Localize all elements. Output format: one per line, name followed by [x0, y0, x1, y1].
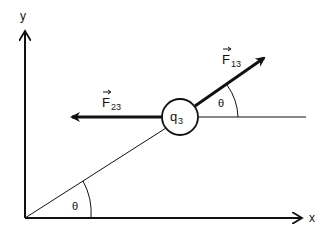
x-axis-label: x — [309, 211, 315, 225]
svg-text:3: 3 — [178, 116, 183, 126]
svg-text:F: F — [222, 52, 230, 67]
y-axis-label: y — [20, 9, 26, 23]
svg-text:q: q — [170, 109, 177, 124]
angle-arc-origin — [83, 181, 91, 218]
angle-arc-charge — [227, 85, 238, 117]
svg-text:23: 23 — [111, 102, 121, 112]
position-line — [25, 128, 166, 218]
force-f23-label: F 23 — [102, 90, 121, 112]
svg-text:F: F — [102, 95, 110, 110]
svg-text:13: 13 — [231, 59, 241, 69]
theta-label-origin: θ — [72, 200, 78, 212]
theta-label-charge: θ — [218, 97, 224, 109]
force-diagram: y x θ θ F 23 F 13 q 3 — [0, 0, 333, 240]
force-f13-label: F 13 — [222, 47, 241, 69]
